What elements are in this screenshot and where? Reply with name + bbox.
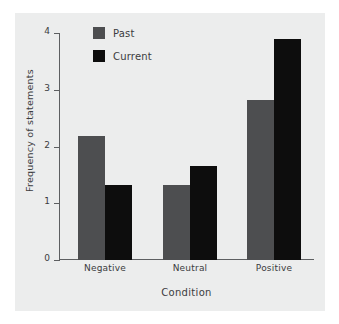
y-tick-label: 0 bbox=[44, 253, 50, 263]
y-tick: 4 bbox=[54, 33, 60, 34]
y-tick: 2 bbox=[54, 147, 60, 148]
legend-item-past: Past bbox=[93, 27, 152, 39]
y-tick-label: 3 bbox=[44, 83, 50, 93]
y-tick-mark bbox=[54, 147, 60, 148]
current-swatch-icon bbox=[93, 50, 105, 62]
bar-negative-current bbox=[105, 185, 132, 260]
legend-label-past: Past bbox=[113, 28, 135, 39]
y-tick: 0 bbox=[54, 260, 60, 261]
bar-positive-past bbox=[247, 100, 274, 260]
figure: 01234 Frequency of statements Condition … bbox=[0, 0, 339, 324]
legend-item-current: Current bbox=[93, 50, 152, 62]
y-tick-label: 4 bbox=[44, 26, 50, 36]
bar-positive-current bbox=[274, 39, 301, 260]
x-axis-title: Condition bbox=[59, 287, 314, 298]
y-tick-mark bbox=[54, 203, 60, 204]
y-tick-mark bbox=[54, 90, 60, 91]
bar-neutral-current bbox=[190, 166, 217, 260]
y-tick: 1 bbox=[54, 203, 60, 204]
plot-area: 01234 Frequency of statements Condition … bbox=[15, 13, 325, 311]
chart-legend: Past Current bbox=[93, 27, 152, 73]
y-tick-label: 1 bbox=[44, 196, 50, 206]
y-axis-title: Frequency of statements bbox=[24, 41, 35, 221]
past-swatch-icon bbox=[93, 27, 105, 39]
y-tick-mark bbox=[54, 33, 60, 34]
bar-negative-past bbox=[78, 136, 105, 260]
y-tick-mark bbox=[54, 260, 60, 261]
y-tick-label: 2 bbox=[44, 140, 50, 150]
x-category-label-negative: Negative bbox=[66, 263, 144, 273]
bar-neutral-past bbox=[163, 185, 190, 260]
x-category-label-neutral: Neutral bbox=[151, 263, 229, 273]
x-category-label-positive: Positive bbox=[235, 263, 313, 273]
chart-panel: 01234 Frequency of statements Condition … bbox=[15, 13, 325, 311]
legend-label-current: Current bbox=[113, 51, 152, 62]
y-tick: 3 bbox=[54, 90, 60, 91]
